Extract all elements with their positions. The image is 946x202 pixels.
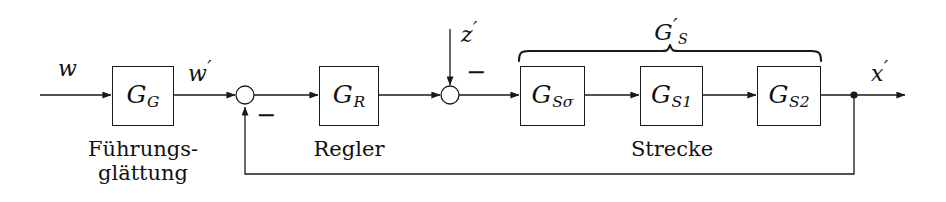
caption-regler: Regler bbox=[314, 138, 385, 162]
block-gs2[interactable]: GS2 bbox=[757, 66, 821, 126]
caption-fuehrungsglaettung: Führungs- glättung bbox=[88, 138, 198, 185]
block-gs2-label: GS2 bbox=[768, 82, 809, 111]
caption-fuehrungsglaettung-line2: glättung bbox=[88, 162, 198, 186]
minus-sign-sum2: − bbox=[466, 60, 486, 84]
summing-junction-2 bbox=[441, 86, 459, 104]
block-gs-sigma-label: GSσ bbox=[532, 82, 574, 111]
signal-label-x-prime: x′ bbox=[871, 58, 888, 85]
summing-junction-1 bbox=[236, 86, 254, 104]
block-gr[interactable]: GR bbox=[319, 66, 379, 126]
block-gr-label: GR bbox=[333, 82, 365, 111]
signal-label-w: w bbox=[58, 58, 77, 80]
block-diagram-canvas: GG GR GSσ GS1 GS2 w w′ z′ x′ − − G′S Füh… bbox=[0, 0, 946, 202]
signal-label-z-prime: z′ bbox=[461, 19, 477, 46]
block-gs1[interactable]: GS1 bbox=[640, 66, 703, 126]
plant-group-brace bbox=[519, 45, 821, 61]
minus-sign-sum1: − bbox=[256, 103, 276, 127]
block-gs-sigma[interactable]: GSσ bbox=[520, 66, 585, 126]
caption-strecke: Strecke bbox=[631, 138, 713, 162]
signal-label-w-prime: w′ bbox=[188, 58, 212, 85]
brace-label-gs-prime: G′S bbox=[654, 16, 688, 46]
block-gs1-label: GS1 bbox=[651, 82, 692, 111]
caption-fuehrungsglaettung-line1: Führungs- bbox=[88, 138, 198, 162]
feedback-tap-node bbox=[850, 91, 857, 98]
block-gg[interactable]: GG bbox=[112, 66, 174, 126]
block-gg-label: GG bbox=[127, 82, 160, 111]
